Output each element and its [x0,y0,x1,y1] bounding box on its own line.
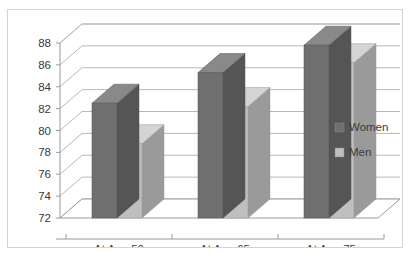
x-category-label: At Age 75 [306,243,356,247]
y-tick-label: 72 [38,212,51,224]
y-tick-label: 76 [38,168,51,180]
y-tick-label: 86 [38,59,51,71]
gridline-riser [60,177,82,196]
bar-front-face [198,73,223,218]
y-tick-label: 88 [38,37,51,49]
bar-chart-3d: 727476788082848688At Age 50At Age 65At A… [8,10,402,247]
legend-swatch-men [335,148,344,157]
bars-layer [92,26,376,218]
bar-front-face [304,45,329,218]
x-axis: At Age 50At Age 65At Age 75 [56,234,384,247]
bar-side-face [329,26,351,218]
bar-women-1[interactable] [198,54,245,218]
y-tick-label: 78 [38,146,51,158]
gridline-riser [60,133,82,152]
x-category-label: At Age 65 [200,243,250,247]
y-tick-label: 84 [38,81,51,93]
y-axis-labels: 727476788082848688 [38,37,51,224]
legend-swatch-women [335,123,344,132]
chart-container: 727476788082848688At Age 50At Age 65At A… [7,9,403,248]
bar-side-face [248,87,270,218]
gridline-riser [60,24,82,43]
y-tick-label: 74 [38,190,51,202]
bar-front-face [92,103,117,218]
bar-side-face [223,54,245,218]
gridline-riser [60,112,82,131]
bar-side-face [117,84,139,218]
legend-label-men: Men [349,146,371,158]
y-tick-label: 82 [38,103,51,115]
legend-label-women: Women [349,121,388,133]
y-tick-label: 80 [38,125,51,137]
x-category-label: At Age 50 [94,243,144,247]
bar-women-0[interactable] [92,84,139,218]
gridline-riser [60,155,82,174]
bar-women-2[interactable] [304,26,351,218]
gridline-riser [60,46,82,65]
gridline-riser [60,68,82,87]
gridline-riser [60,90,82,109]
